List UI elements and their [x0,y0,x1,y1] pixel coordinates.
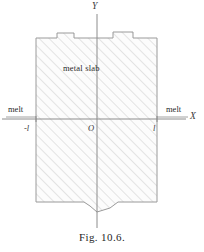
slab-hatched-body [30,24,166,220]
origin-label: O [88,124,94,133]
metal-slab-label: metal slab [63,64,100,73]
x-tick-label-left: -l [24,124,29,133]
melt-region-label-left: melt [8,105,23,114]
y-axis-label: Y [92,2,97,12]
melt-region-label-right: melt [166,105,181,114]
figure-metal-slab: Y X -l l O melt melt metal slab Fig. 10.… [0,0,204,252]
figure-canvas [0,0,204,252]
x-axis-label: X [190,112,196,122]
figure-caption: Fig. 10.6. [0,232,204,243]
x-tick-label-right: l [153,124,155,133]
